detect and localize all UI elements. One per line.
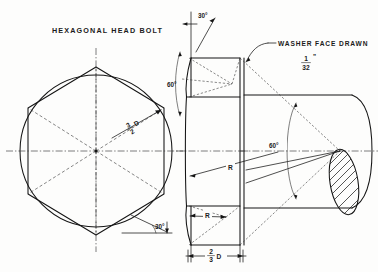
head-left-chamfer-middle [185,97,186,206]
construction-line-upper-3 [232,58,240,84]
head-height-numerator: 2 [209,248,213,255]
arrowhead-across-flats [155,110,161,115]
bolt-head-front-view: 30° 60° R R [167,12,278,265]
arrowhead-chamfer-ray [209,18,215,23]
arrowhead-chamfer-angle [165,228,169,233]
washer-face-note: WASHER FACE DRAWN 1 " 32 [246,40,368,71]
washer-face-denominator: 32 [302,64,310,71]
hatch-lines [318,138,368,236]
radius-label-upper: R [228,164,233,171]
across-flats-denominator: 2 [129,127,136,135]
arrowhead-radius-lower-right [221,215,226,219]
angle-label-chamfer-30: 30° [198,12,208,19]
radial-line-2 [96,151,164,194]
cone-construction-line-top [240,58,340,151]
drawing-sheet: HEXAGONAL HEAD BOLT [0,0,378,272]
angle-label-side-60: 60° [269,142,279,149]
angle-label-front-60: 60° [167,81,177,88]
technical-drawing-canvas: HEXAGONAL HEAD BOLT [0,0,378,272]
construction-line-lower-2 [189,217,226,245]
radial-line-5 [28,108,96,151]
head-left-chamfer-bottom [186,206,191,245]
arrowhead-radius-upper [190,174,196,178]
radial-line-4 [28,151,96,194]
hexagon-top-view: 3 2 D 30° [6,48,186,252]
angle-label-top-view-30: 30° [155,223,165,230]
dimension-across-flats: 3 2 D [124,116,143,136]
construction-line-lower-3 [226,206,240,217]
arrowhead-front-60-bottom [178,111,182,116]
construction-line-upper-2 [189,84,232,97]
head-left-chamfer-top [186,58,191,97]
cone-construction-line-bottom [240,151,340,245]
washer-face-dimension: 1 " 32 [302,53,317,71]
head-height-unit: D [217,253,222,260]
washer-face-label: WASHER FACE DRAWN [278,40,368,47]
arrowhead-front-60-top [178,52,182,57]
bolt-shank-side-view: 60° [240,58,378,245]
arrowhead-projection [183,22,187,26]
center-point [95,150,98,153]
head-height-denominator: 3 [209,256,213,263]
washer-face-numerator: 1 [304,55,308,62]
radius-label-lower: R [205,212,210,219]
page-title: HEXAGONAL HEAD BOLT [52,26,163,35]
section-hatch-ellipse [318,138,368,236]
washer-face-inch-mark: " [313,53,316,60]
chamfer-construction-ray-30 [196,18,215,52]
